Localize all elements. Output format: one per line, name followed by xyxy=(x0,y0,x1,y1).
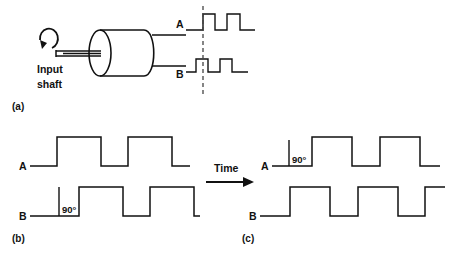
panel-c-signal-a-label: A xyxy=(261,160,269,172)
time-arrow-label: Time xyxy=(214,162,238,174)
input-shaft-label-line2: shaft xyxy=(37,78,63,90)
encoder-waveform-figure: A B Input shaft (a) A B 90° xyxy=(0,0,469,255)
panel-b-waveform-b xyxy=(30,187,200,216)
panel-a-signal-b-label: B xyxy=(176,68,184,80)
panel-b-phase-marker: 90° xyxy=(59,187,77,216)
panel-b-waveform-a xyxy=(30,137,190,166)
panel-c-phase-marker: 90° xyxy=(289,140,307,166)
panel-b-signal-a-label: A xyxy=(19,160,27,172)
panel-a: A B Input shaft (a) xyxy=(12,6,255,112)
panel-b-signal-b-label: B xyxy=(19,210,27,222)
panel-b-caption: (b) xyxy=(12,233,25,244)
counterclockwise-rotation-arrow-icon xyxy=(40,29,58,49)
encoder-output-leads xyxy=(152,35,186,66)
right-arrow-icon xyxy=(206,177,254,187)
panel-b: A B 90° (b) xyxy=(12,137,200,244)
input-shaft-label-line1: Input xyxy=(37,63,63,75)
time-arrow: Time xyxy=(206,162,254,187)
panel-a-caption: (a) xyxy=(12,101,24,112)
panel-b-phase-label: 90° xyxy=(62,204,77,215)
panel-c-waveform-b xyxy=(260,187,445,216)
encoder-input-shaft xyxy=(56,50,101,57)
panel-a-waveform-b xyxy=(186,59,248,72)
panel-a-signal-a-label: A xyxy=(176,18,184,30)
panel-a-waveform-a xyxy=(186,14,255,30)
panel-c-caption: (c) xyxy=(242,233,254,244)
panel-c-signal-b-label: B xyxy=(249,210,257,222)
panel-c-phase-label: 90° xyxy=(292,154,307,165)
panel-c: A 90° B (c) xyxy=(242,137,445,244)
